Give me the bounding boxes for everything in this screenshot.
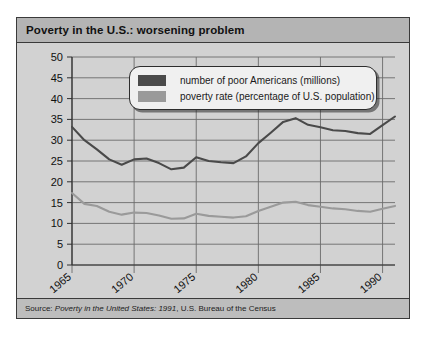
x-axis-tick-label: 1975	[171, 270, 197, 295]
legend-label-poor-americans: number of poor Americans (millions)	[180, 75, 340, 86]
legend-item-poverty-rate: poverty rate (percentage of U.S. populat…	[138, 88, 368, 104]
source-prefix: Source:	[25, 304, 55, 313]
y-axis-tick-label: 50	[51, 51, 63, 63]
source-bar: Source: Poverty in the United States: 19…	[17, 298, 409, 318]
y-axis-tick-label: 25	[51, 155, 63, 167]
legend-item-poor-americans: number of poor Americans (millions)	[138, 72, 368, 88]
legend-label-poverty-rate: poverty rate (percentage of U.S. populat…	[180, 91, 375, 102]
legend-swatch-dark	[138, 75, 166, 86]
page-title: Poverty in the U.S.: worsening problem	[17, 24, 245, 36]
x-axis-tick-label: 1980	[233, 270, 259, 295]
y-axis-tick-label: 20	[51, 176, 63, 188]
y-axis-tick-label: 30	[51, 134, 63, 146]
chart-legend: number of poor Americans (millions) pove…	[129, 66, 377, 110]
y-axis-tick-label: 10	[51, 217, 63, 229]
plot-area: 05101520253035404550 1965197019751980198…	[17, 43, 409, 318]
source-note: Source: Poverty in the United States: 19…	[17, 304, 276, 313]
x-axis-tick-label: 1970	[109, 270, 135, 295]
series-line-poverty-rate	[72, 193, 395, 219]
source-title: Poverty in the United States: 1991	[55, 304, 176, 313]
y-axis-tick-label: 40	[51, 93, 63, 105]
source-suffix: , U.S. Bureau of the Census	[176, 304, 276, 313]
x-axis-ticks: 196519701975198019851990	[47, 270, 384, 295]
data-series	[72, 116, 395, 218]
x-axis-tick-label: 1965	[47, 270, 73, 295]
y-axis-tick-label: 5	[57, 238, 63, 250]
y-axis-tick-label: 35	[51, 113, 63, 125]
x-axis-tick-label: 1990	[357, 270, 383, 295]
legend-swatch-light	[138, 91, 166, 102]
y-axis-tick-label: 45	[51, 72, 63, 84]
chart-figure: Poverty in the U.S.: worsening problem 0…	[16, 17, 410, 319]
y-axis-ticks: 05101520253035404550	[51, 51, 72, 271]
y-axis-tick-label: 0	[57, 259, 63, 271]
y-axis-tick-label: 15	[51, 197, 63, 209]
chart-title-bar: Poverty in the U.S.: worsening problem	[17, 18, 409, 43]
x-axis-tick-label: 1985	[295, 270, 321, 295]
